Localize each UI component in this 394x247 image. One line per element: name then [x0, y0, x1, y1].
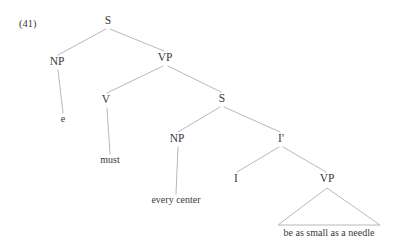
node-i-bar: I' — [278, 132, 284, 144]
tree-branch-s-embedded-to-np-embedded — [178, 107, 220, 132]
example-number: (41) — [19, 18, 37, 30]
tree-branch-s-root-to-vp-matrix — [110, 29, 164, 51]
node-s-root: S — [105, 14, 111, 26]
tree-branch-s-embedded-to-i-bar — [224, 107, 280, 132]
tree-branch-np-subject-to-e-trace — [58, 70, 63, 113]
node-vp-lower: VP — [320, 172, 335, 184]
node-i-head: I — [234, 172, 238, 184]
tree-node-labels: SNPVPeVSmustNPI'every centerIVPbe as sma… — [50, 14, 375, 238]
terminal-must: must — [100, 154, 120, 165]
terminal-every-center: every center — [151, 194, 201, 205]
node-vp-matrix: VP — [158, 51, 173, 63]
tree-triangle-vp-lower — [278, 188, 380, 225]
syntax-tree-svg: SNPVPeVSmustNPI'every centerIVPbe as sma… — [0, 0, 394, 247]
node-np-subject: NP — [50, 55, 65, 67]
syntax-tree-figure: SNPVPeVSmustNPI'every centerIVPbe as sma… — [0, 0, 394, 247]
tree-branch-vp-matrix-to-v-modal — [107, 66, 163, 93]
tree-branch-i-bar-to-i-head — [237, 147, 279, 172]
tree-branch-np-embedded-to-every-center — [176, 147, 178, 194]
terminal-e-trace: e — [61, 113, 66, 124]
tree-triangles — [278, 188, 380, 225]
tree-branch-s-root-to-np-subject — [58, 29, 106, 55]
node-np-embedded: NP — [170, 132, 185, 144]
node-s-embedded: S — [219, 92, 225, 104]
tree-branch-v-modal-to-must — [107, 108, 110, 154]
node-v-modal: V — [102, 93, 111, 105]
tree-branches — [58, 29, 326, 194]
terminal-needle: be as small as a needle — [284, 227, 375, 238]
tree-branch-vp-matrix-to-s-embedded — [168, 66, 221, 92]
tree-branch-i-bar-to-vp-lower — [283, 147, 326, 172]
